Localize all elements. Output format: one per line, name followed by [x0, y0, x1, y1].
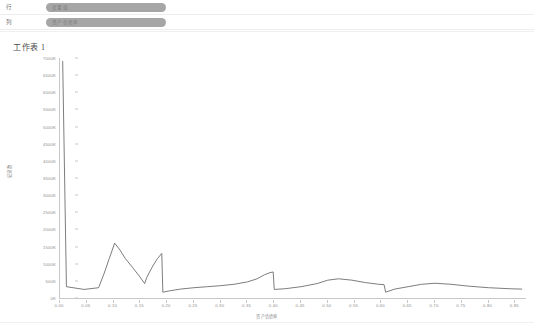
series-line	[63, 61, 522, 292]
y-axis-tick-label: 0K	[50, 296, 56, 301]
y-axis-tick-label: 4000K	[43, 158, 56, 163]
x-axis-tick-mark	[488, 300, 489, 303]
x-axis-tick-mark	[86, 300, 87, 303]
x-axis-tick-label: 0.65	[403, 303, 412, 308]
x-axis-tick-mark	[407, 300, 408, 303]
plot-area[interactable]	[59, 58, 526, 299]
rows-shelf[interactable]: 行 度量值	[0, 0, 534, 15]
x-axis-tick-label: 0.30	[215, 303, 224, 308]
y-axis-tick-label: 3500K	[43, 176, 56, 181]
x-axis-tick-label: 0.10	[108, 303, 117, 308]
y-axis-title: 记录数	[6, 165, 12, 178]
y-axis-tick-label: 3000K	[43, 193, 56, 198]
x-axis-tick-mark	[354, 300, 355, 303]
y-axis-tick-label: 4500K	[43, 141, 56, 146]
x-axis-tick-mark	[166, 300, 167, 303]
y-axis-tick-label: 2500K	[43, 210, 56, 215]
x-axis-title: 资产负债率	[0, 313, 534, 319]
y-axis-tick-label: 1000K	[43, 261, 56, 266]
bottom-divider	[0, 322, 534, 323]
x-axis-tick-label: 0.35	[242, 303, 251, 308]
columns-shelf-label: 列	[6, 18, 46, 26]
series-line-svg	[60, 58, 526, 298]
shelf-toolbar: 行 度量值 列 资产负债率	[0, 0, 534, 30]
x-axis-tick-mark	[273, 300, 274, 303]
x-axis-tick-label: 0.50	[322, 303, 331, 308]
x-axis-tick-label: 0.60	[376, 303, 385, 308]
rows-shelf-pill[interactable]: 度量值	[46, 3, 166, 12]
x-axis-tick-label: 0.45	[296, 303, 305, 308]
x-axis-tick-label: 0.75	[456, 303, 465, 308]
x-axis-tick-label: 0.00	[55, 303, 64, 308]
line-chart: 7000K6500K6000K5500K5000K4500K4000K3500K…	[0, 55, 534, 330]
x-axis-tick-label: 0.15	[135, 303, 144, 308]
y-axis-tick-label: 7000K	[43, 56, 56, 61]
x-axis-tick-mark	[113, 300, 114, 303]
x-axis-tick-mark	[300, 300, 301, 303]
x-axis-tick-mark	[461, 300, 462, 303]
columns-shelf[interactable]: 列 资产负债率	[0, 15, 534, 30]
x-axis-tick-mark	[434, 300, 435, 303]
x-axis-tick-label: 0.05	[81, 303, 90, 308]
x-axis-tick-mark	[59, 300, 60, 303]
x-axis-tick-mark	[514, 300, 515, 303]
y-axis-tick-label: 5500K	[43, 107, 56, 112]
y-axis-tick-label: 1500K	[43, 244, 56, 249]
x-axis-tick-label: 0.40	[269, 303, 278, 308]
y-axis-ticks: 7000K6500K6000K5500K5000K4500K4000K3500K…	[20, 58, 56, 298]
x-axis-tick-mark	[327, 300, 328, 303]
x-axis-tick-mark	[193, 300, 194, 303]
columns-shelf-pill[interactable]: 资产负债率	[46, 18, 166, 27]
toolbar-divider	[0, 31, 534, 32]
x-axis-tick-mark	[380, 300, 381, 303]
x-axis-tick-label: 0.20	[162, 303, 171, 308]
x-axis-tick-label: 0.70	[429, 303, 438, 308]
y-axis-tick-label: 5000K	[43, 124, 56, 129]
x-axis-tick-label: 0.55	[349, 303, 358, 308]
x-axis-tick-label: 0.25	[188, 303, 197, 308]
y-axis-tick-label: 6000K	[43, 90, 56, 95]
y-axis-tick-label: 2000K	[43, 227, 56, 232]
x-axis-tick-label: 0.80	[483, 303, 492, 308]
y-axis-tick-label: 500K	[45, 278, 56, 283]
y-axis-tick-label: 6500K	[43, 73, 56, 78]
x-axis-ticks: 0.000.050.100.150.200.250.300.350.400.45…	[59, 300, 525, 310]
rows-shelf-label: 行	[6, 3, 46, 11]
x-axis-tick-mark	[139, 300, 140, 303]
worksheet-title: 工作表 1	[13, 41, 46, 52]
x-axis-tick-mark	[246, 300, 247, 303]
x-axis-tick-mark	[220, 300, 221, 303]
x-axis-tick-label: 0.85	[510, 303, 519, 308]
